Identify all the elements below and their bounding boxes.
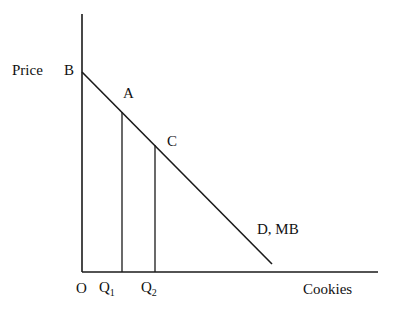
point-label-a: A [123, 86, 134, 101]
y-axis-label: Price [12, 63, 43, 78]
point-label-c: C [167, 134, 177, 149]
origin-label: O [76, 281, 87, 296]
x-axis-label: Cookies [303, 282, 352, 297]
diagram-canvas: Price B A C D, MB O Q1 Q2 Cookies [0, 0, 393, 315]
demand-curve-line [82, 72, 272, 264]
q2-tick-label: Q2 [141, 280, 157, 298]
demand-diagram-svg [0, 0, 393, 315]
q2-subscript: 2 [152, 287, 157, 298]
point-label-b: B [64, 63, 74, 78]
q1-base: Q [99, 279, 110, 295]
q1-tick-label: Q1 [99, 280, 115, 298]
demand-curve-label: D, MB [257, 222, 299, 237]
q1-subscript: 1 [110, 287, 115, 298]
q2-base: Q [141, 279, 152, 295]
